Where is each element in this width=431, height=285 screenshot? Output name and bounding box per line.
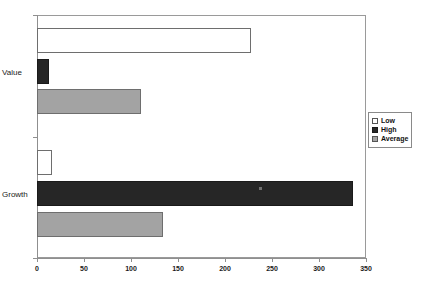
x-tick-50 [84, 258, 85, 262]
category-divider-tick-2 [33, 258, 38, 259]
legend-label-average: Average [381, 135, 408, 143]
x-tick-350 [366, 258, 367, 262]
legend-item-low: Low [372, 117, 408, 125]
x-tick-100 [131, 258, 132, 262]
legend-label-low: Low [381, 117, 395, 125]
x-tick-200 [225, 258, 226, 262]
chart-legend: Low High Average [368, 112, 412, 148]
bar-value-high [37, 59, 49, 84]
category-label-growth: Growth [2, 190, 28, 199]
x-tick-label-50: 50 [80, 265, 88, 272]
category-divider-tick-0 [33, 15, 38, 16]
legend-item-average: Average [372, 135, 408, 143]
scan-artifact [259, 187, 262, 190]
bar-growth-average [37, 212, 163, 237]
x-tick-300 [319, 258, 320, 262]
legend-item-high: High [372, 126, 408, 134]
x-tick-250 [272, 258, 273, 262]
legend-swatch-average-icon [372, 136, 378, 142]
x-tick-150 [178, 258, 179, 262]
x-tick-label-0: 0 [35, 265, 39, 272]
x-tick-label-100: 100 [125, 265, 137, 272]
bar-value-low [37, 28, 251, 53]
bar-growth-high [37, 181, 353, 206]
x-tick-label-300: 300 [313, 265, 325, 272]
legend-swatch-low-icon [372, 118, 378, 124]
legend-swatch-high-icon [372, 127, 378, 133]
x-tick-label-250: 250 [266, 265, 278, 272]
bar-chart: 050100150200250300350 ValueGrowth Low Hi… [0, 0, 431, 285]
category-label-value: Value [2, 68, 22, 77]
x-tick-label-350: 350 [360, 265, 372, 272]
bar-growth-low [37, 150, 52, 175]
legend-label-high: High [381, 126, 397, 134]
bar-value-average [37, 89, 141, 114]
x-tick-label-200: 200 [219, 265, 231, 272]
x-tick-label-150: 150 [172, 265, 184, 272]
category-divider-tick-1 [33, 137, 38, 138]
category-axis-line [37, 258, 366, 259]
